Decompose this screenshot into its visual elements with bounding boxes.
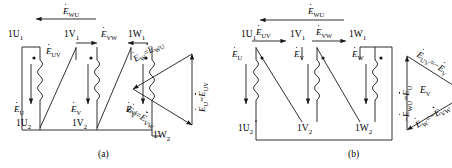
label-terminal-1w1: 1W1	[128, 30, 145, 42]
label-terminal-1u1: 1U1	[8, 30, 23, 42]
coil-phase-v-b	[315, 60, 320, 100]
label-terminal-1v1-b: 1V1	[290, 30, 305, 42]
label-terminal-1w2: 1W2	[153, 131, 170, 143]
polarity-dot-w-b	[379, 56, 382, 59]
caption-panel-a: (a)	[98, 150, 109, 160]
label-terminal-1v1: 1V1	[64, 30, 79, 42]
label-line-emf-wu-b: EWU	[308, 7, 324, 18]
label-terminal-1w2-b: 1W2	[355, 124, 372, 136]
phasor-label-negewu-eu-b: −EWU=EU	[402, 86, 413, 122]
figure-panel-b: EWU 1U1 1V1 1W1 EUV EVW EU EV EW 1U2 1V2…	[224, 0, 447, 168]
label-phase-emf-v-b: EV	[294, 50, 304, 61]
polarity-dot-v-b	[321, 56, 324, 59]
label-phase-emf-w-b: EW	[352, 50, 364, 61]
polarity-dot-u-b	[260, 56, 263, 59]
coil-phase-u	[38, 60, 43, 100]
polarity-dot-v	[89, 56, 92, 59]
label-terminal-1u2: 1U2	[16, 119, 31, 131]
caption-panel-b: (b)	[348, 150, 359, 160]
label-terminal-1u2-b: 1U2	[238, 124, 253, 136]
label-terminal-1v2: 1V2	[72, 119, 87, 131]
label-line-emf-wu: EWU	[63, 7, 79, 18]
figure-panel-a: EWU 1U1 1V1 1W1 EUV EVW EU EV EW 1U2 1V2…	[0, 0, 223, 168]
label-phase-emf-u-b: EU	[232, 50, 242, 61]
label-phase-emf-v: EV	[71, 105, 81, 116]
label-line-emf-uv-b: EUV	[256, 28, 271, 39]
polarity-dot-u	[32, 56, 35, 59]
label-line-emf-vw-b: EVW	[316, 28, 332, 39]
coil-phase-w-b	[373, 60, 378, 100]
label-terminal-1v2-b: 1V2	[297, 124, 312, 136]
label-terminal-1u1-b: 1U1	[241, 30, 256, 42]
label-phase-emf-u: EU	[14, 105, 24, 116]
coil-phase-u-b	[254, 60, 259, 100]
phasor-label-eu-euv: EU=EUV	[198, 82, 209, 112]
phasor-label-center-ev-b: EV	[420, 86, 430, 97]
coil-phase-w	[150, 60, 155, 100]
label-terminal-1w1-b: 1W1	[349, 30, 366, 42]
panel-a-vector-graphics	[0, 0, 223, 168]
label-line-emf-uv: EUV	[46, 47, 61, 58]
label-line-emf-vw: EVW	[101, 30, 117, 41]
coil-phase-v	[95, 60, 100, 100]
